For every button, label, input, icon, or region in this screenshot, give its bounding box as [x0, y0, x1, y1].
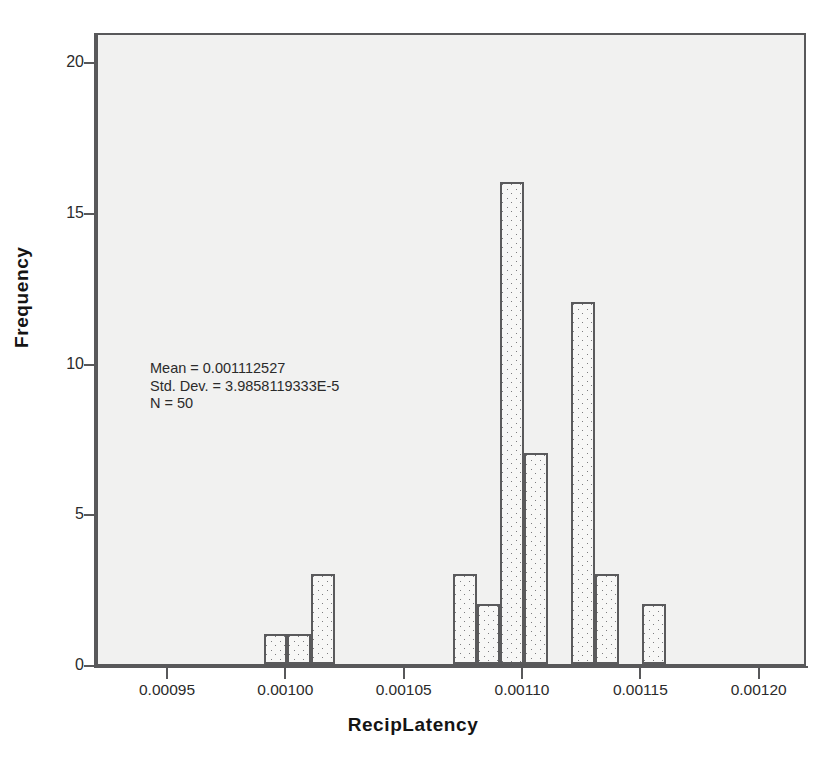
x-axis-title: RecipLatency [0, 714, 826, 736]
x-tick-label: 0.00100 [230, 682, 340, 698]
stats-n: N = 50 [150, 395, 339, 413]
x-tick-label: 0.00110 [467, 682, 577, 698]
y-tick-label: 15 [44, 205, 84, 221]
x-tick-label: 0.00115 [585, 682, 695, 698]
stats-mean: Mean = 0.001112527 [150, 360, 339, 378]
stats-annotation: Mean = 0.001112527 Std. Dev. = 3.9858119… [150, 360, 339, 413]
y-tick-label: 5 [44, 506, 84, 522]
plot-area [96, 33, 806, 666]
x-tick-mark [758, 668, 760, 679]
y-tick-mark [84, 364, 94, 366]
histogram-bar [642, 604, 666, 664]
x-tick-mark [639, 668, 641, 679]
x-tick-mark [166, 668, 168, 679]
y-tick-label: 10 [44, 356, 84, 372]
y-axis-line [94, 33, 96, 668]
y-tick-label: 0 [44, 657, 84, 673]
histogram-bar [571, 302, 595, 664]
histogram-bar [453, 574, 477, 664]
x-tick-label: 0.00105 [349, 682, 459, 698]
histogram-bar [500, 182, 524, 664]
histogram-chart: 05101520 0.000950.001000.001050.001100.0… [0, 0, 826, 764]
histogram-bar [287, 634, 311, 664]
histogram-bar [311, 574, 335, 664]
x-axis-line [94, 666, 808, 668]
histogram-bar [524, 453, 548, 664]
y-tick-mark [84, 514, 94, 516]
x-tick-mark [284, 668, 286, 679]
x-tick-label: 0.00095 [112, 682, 222, 698]
y-tick-mark [84, 213, 94, 215]
y-tick-mark [84, 665, 94, 667]
stats-std-dev: Std. Dev. = 3.9858119333E-5 [150, 378, 339, 396]
y-tick-mark [84, 62, 94, 64]
histogram-bar [477, 604, 501, 664]
y-tick-label: 20 [44, 54, 84, 70]
x-tick-mark [403, 668, 405, 679]
histogram-bar [264, 634, 288, 664]
y-axis-title: Frequency [11, 248, 33, 348]
histogram-bar [595, 574, 619, 664]
x-tick-mark [521, 668, 523, 679]
x-tick-label: 0.00120 [704, 682, 814, 698]
